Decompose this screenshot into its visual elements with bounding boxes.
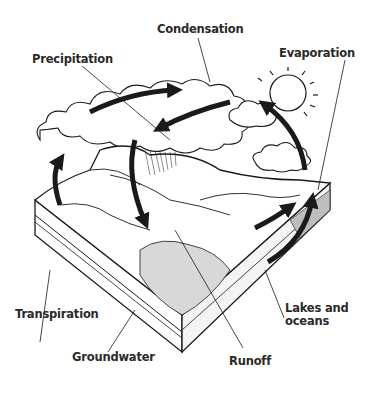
label-lakes-line2: oceans	[285, 315, 348, 328]
label-transpiration: Transpiration	[15, 308, 99, 321]
water-cycle-diagram: Condensation Precipitation Evaporation T…	[0, 0, 372, 402]
label-runoff: Runoff	[229, 355, 271, 368]
label-condensation: Condensation	[157, 23, 243, 36]
label-groundwater: Groundwater	[72, 351, 155, 364]
cloud-main	[37, 79, 250, 153]
label-precipitation: Precipitation	[32, 53, 113, 66]
label-lakes-and-oceans: Lakes and oceans	[285, 302, 348, 328]
arrow-transpiration	[55, 160, 60, 205]
label-evaporation: Evaporation	[279, 47, 355, 60]
